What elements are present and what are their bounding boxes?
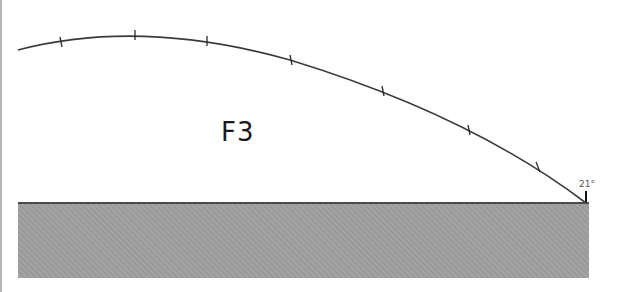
figure-label: F3 bbox=[221, 117, 255, 147]
landing-angle-label: 21° bbox=[579, 179, 595, 189]
trajectory-ticks bbox=[60, 30, 540, 172]
trajectory-curve bbox=[18, 36, 586, 203]
ground-block bbox=[18, 202, 589, 278]
